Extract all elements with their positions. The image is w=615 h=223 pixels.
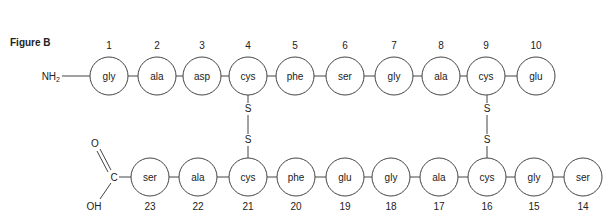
residue-number: 15 (528, 201, 540, 212)
residue-label: cys (480, 172, 495, 183)
sulfur-label: S (484, 103, 491, 114)
residue-label: ser (143, 172, 158, 183)
residue-number: 4 (245, 40, 251, 51)
residue-label: glu (529, 71, 542, 82)
n-terminus-label: NH2 (42, 71, 60, 83)
residue-number: 23 (144, 201, 156, 212)
residue-number: 10 (530, 40, 542, 51)
residue-number: 14 (577, 201, 589, 212)
residue-label: ala (434, 71, 448, 82)
residue-number: 21 (242, 201, 254, 212)
residue-number: 3 (199, 40, 205, 51)
residue-label: ser (576, 172, 591, 183)
residue-label: ala (150, 71, 164, 82)
oxygen-label: O (91, 138, 99, 149)
residue-label: ser (338, 71, 353, 82)
residue-number: 19 (339, 201, 351, 212)
residue-label: gly (385, 172, 398, 183)
residue-label: ala (432, 172, 446, 183)
residue-label: cys (241, 172, 256, 183)
residue-label: glu (338, 172, 351, 183)
residue-number: 20 (290, 201, 302, 212)
residue-number: 16 (481, 201, 493, 212)
residue-label: gly (528, 172, 541, 183)
carbon-label: C (110, 172, 117, 183)
peptide-diagram: gly1ala2asp3cys4phe5ser6gly7ala8cys9glu1… (0, 0, 615, 223)
hydroxyl-label: OH (87, 201, 102, 212)
residue-number: 5 (292, 40, 298, 51)
residue-number: 9 (483, 40, 489, 51)
residue-number: 1 (106, 40, 112, 51)
hydroxyl-bond (100, 183, 111, 199)
sulfur-label: S (484, 134, 491, 145)
residue-label: gly (388, 71, 401, 82)
residue-number: 17 (433, 201, 445, 212)
residue-number: 7 (391, 40, 397, 51)
residue-label: phe (288, 172, 305, 183)
sulfur-label: S (245, 134, 252, 145)
residue-label: phe (287, 71, 304, 82)
residue-label: asp (194, 71, 211, 82)
residue-label: gly (103, 71, 116, 82)
residue-label: cys (479, 71, 494, 82)
residue-number: 6 (342, 40, 348, 51)
residue-label: ala (191, 172, 205, 183)
sulfur-label: S (245, 103, 252, 114)
residue-number: 18 (385, 201, 397, 212)
residue-number: 22 (192, 201, 204, 212)
residue-number: 2 (154, 40, 160, 51)
residue-label: cys (241, 71, 256, 82)
residue-number: 8 (438, 40, 444, 51)
